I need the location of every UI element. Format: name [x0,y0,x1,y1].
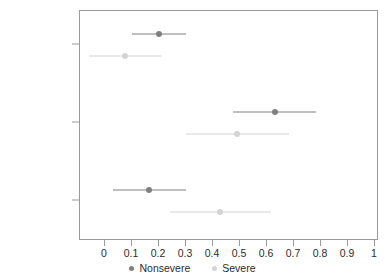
y-axis-tick [72,122,79,123]
forest-plot-chart: Slow-simpleFast-simpleFast-complex 00.10… [0,0,385,279]
x-axis-tick [266,240,267,246]
y-axis-tick [72,44,79,45]
x-axis-tick [239,240,240,246]
data-point [217,209,223,215]
legend-label: Severe [222,262,255,274]
y-axis-tick [72,200,79,201]
x-axis-tick [347,240,348,246]
x-axis-tick [185,240,186,246]
x-axis-tick-label: 0 [101,247,107,259]
legend-item: Nonsevere [129,262,190,274]
legend-marker-icon [129,266,134,271]
data-point [272,109,278,115]
x-axis-tick-label: 0.4 [205,247,220,259]
x-axis-tick [212,240,213,246]
plot-inner [80,11,377,239]
legend-marker-icon [212,266,217,271]
x-axis-tick-label: 1 [371,247,377,259]
plot-area [79,10,378,240]
x-axis-tick [104,240,105,246]
x-axis-tick [320,240,321,246]
x-axis-tick [131,240,132,246]
legend-item: Severe [212,262,255,274]
chart-legend: NonsevereSevere [0,262,385,274]
data-point [122,53,128,59]
x-axis-tick [374,240,375,246]
data-point [146,187,152,193]
x-axis-tick-label: 0.7 [286,247,301,259]
x-axis-tick-label: 0.9 [340,247,355,259]
data-point [234,131,240,137]
x-axis-tick-label: 0.3 [178,247,193,259]
x-axis-tick [158,240,159,246]
x-axis-tick-label: 0.8 [313,247,328,259]
x-axis-tick-label: 0.6 [259,247,274,259]
x-axis-tick-label: 0.1 [124,247,139,259]
x-axis-tick-label: 0.5 [232,247,247,259]
x-axis-tick-label: 0.2 [151,247,166,259]
legend-label: Nonsevere [139,262,190,274]
x-axis-tick [293,240,294,246]
data-point [156,31,162,37]
